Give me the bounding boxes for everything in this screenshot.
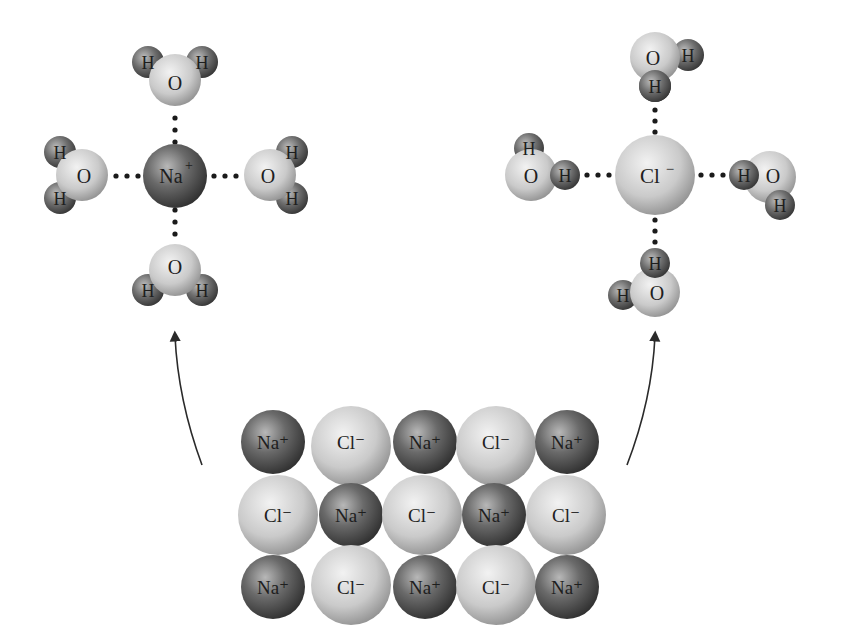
svg-text:H: H	[523, 139, 536, 159]
ion-label: Cl⁻	[482, 577, 510, 598]
svg-text:H: H	[142, 281, 155, 301]
water-molecule-bottom: H H O	[132, 244, 218, 306]
svg-text:O: O	[77, 165, 91, 187]
nacl-dissolution-diagram: Na + H H O H H O H H O H H	[0, 0, 841, 641]
ion-label: Na⁺	[409, 577, 441, 598]
cl-charge: −	[666, 161, 674, 177]
ion-label: Cl⁻	[337, 432, 365, 453]
nacl-crystal-lattice: Na⁺ Cl⁻ Na⁺ Cl⁻ Na⁺ Cl⁻ Na⁺ Cl⁻ Na⁺ Cl⁻ …	[238, 406, 606, 625]
svg-text:H: H	[286, 143, 299, 163]
svg-text:H: H	[286, 189, 299, 209]
svg-text:H: H	[649, 77, 662, 97]
ion-label: Cl⁻	[552, 505, 580, 526]
svg-text:O: O	[766, 165, 780, 187]
svg-text:O: O	[168, 72, 182, 94]
svg-text:O: O	[650, 282, 664, 304]
svg-text:H: H	[196, 53, 209, 73]
water-molecule-right: H H O	[244, 136, 308, 214]
svg-text:H: H	[142, 53, 155, 73]
svg-text:O: O	[168, 256, 182, 278]
svg-text:H: H	[559, 166, 572, 186]
water-molecule-bottom: H H O	[608, 248, 680, 317]
svg-text:H: H	[54, 189, 67, 209]
svg-text:H: H	[682, 46, 695, 66]
water-molecule-left: H H O	[44, 136, 108, 214]
na-charge: +	[185, 158, 193, 173]
ion-label: Cl⁻	[408, 505, 436, 526]
cl-label: Cl	[640, 164, 660, 188]
water-molecule-right: H O H	[729, 151, 796, 220]
ion-label: Na⁺	[551, 577, 583, 598]
hydrated-chloride-ion: Cl − H H O H O H H O H H	[505, 32, 796, 317]
svg-text:H: H	[617, 286, 630, 306]
ion-label: Na⁺	[478, 505, 510, 526]
ion-label: Na⁺	[257, 577, 289, 598]
water-molecule-left: H O H	[505, 133, 580, 201]
ion-label: Na⁺	[335, 505, 367, 526]
water-molecule-top: H H O	[132, 46, 218, 106]
water-molecule-top: H H O	[630, 32, 704, 102]
svg-text:H: H	[54, 143, 67, 163]
svg-text:H: H	[196, 281, 209, 301]
sodium-ion-center: Na +	[143, 144, 207, 208]
svg-text:H: H	[738, 166, 751, 186]
svg-text:H: H	[774, 196, 787, 216]
ion-label: Na⁺	[409, 432, 441, 453]
arrow-to-chloride	[627, 336, 655, 465]
ion-label: Cl⁻	[264, 505, 292, 526]
svg-text:H: H	[649, 254, 662, 274]
na-label: Na	[159, 165, 182, 187]
svg-text:O: O	[524, 165, 538, 187]
svg-text:O: O	[646, 47, 660, 69]
svg-text:O: O	[261, 165, 275, 187]
ion-label: Cl⁻	[337, 577, 365, 598]
ion-label: Na⁺	[551, 432, 583, 453]
hydrated-sodium-ion: Na + H H O H H O H H O H H	[44, 46, 308, 306]
ion-label: Na⁺	[257, 432, 289, 453]
arrow-to-sodium	[175, 336, 202, 465]
ion-label: Cl⁻	[482, 432, 510, 453]
chloride-ion-center: Cl −	[615, 135, 695, 215]
